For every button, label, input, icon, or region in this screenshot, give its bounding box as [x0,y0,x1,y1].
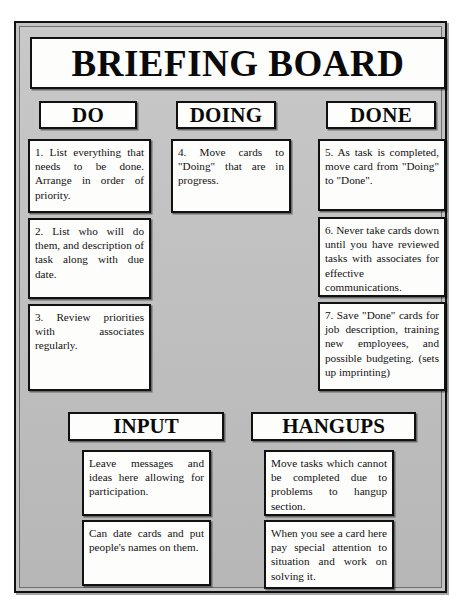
card-done-6[interactable]: 6. Never take cards down until you have … [318,217,446,297]
section-header-hangups-label: HANGUPS [282,416,385,437]
card-do-2[interactable]: 2. List who will do them, and descriptio… [28,218,151,299]
card-done-7-text: 7. Save "Done" cards for job description… [325,308,439,379]
card-hangups-1-text: Move tasks which cannot be completed due… [271,456,387,513]
card-do-2-text: 2. List who will do them, and descriptio… [35,224,144,281]
card-done-7[interactable]: 7. Save "Done" cards for job description… [318,302,446,391]
card-do-3-text: 3. Review priorities with associates reg… [35,310,144,353]
section-header-input: INPUT [68,412,224,441]
board-title: BRIEFING BOARD [72,45,405,82]
card-input-2-text: Can date cards and put people's names on… [89,526,204,554]
briefing-board: BRIEFING BOARD DO DOING DONE 1. List eve… [14,21,447,593]
card-input-2[interactable]: Can date cards and put people's names on… [82,520,211,586]
card-doing-4-text: 4. Move cards to "Doing" that are in pro… [178,145,284,188]
card-do-1[interactable]: 1. List everything that needs to be done… [28,139,151,213]
card-doing-4[interactable]: 4. Move cards to "Doing" that are in pro… [171,139,291,213]
board-inner-frame: BRIEFING BOARD DO DOING DONE 1. List eve… [19,26,442,588]
card-done-5[interactable]: 5. As task is completed, move card from … [318,139,446,211]
column-header-done: DONE [326,101,436,129]
card-hangups-2-text: When you see a card here pay special att… [271,526,387,583]
card-do-3[interactable]: 3. Review priorities with associates reg… [28,304,151,391]
column-header-done-label: DONE [350,105,412,126]
section-header-hangups: HANGUPS [251,412,416,441]
column-header-do-label: DO [72,105,104,126]
column-header-do: DO [39,101,137,129]
card-done-6-text: 6. Never take cards down until you have … [325,223,439,294]
board-title-box: BRIEFING BOARD [30,37,446,89]
card-hangups-2[interactable]: When you see a card here pay special att… [264,520,394,589]
card-input-1-text: Leave messages and ideas here allowing f… [89,456,204,499]
card-do-1-text: 1. List everything that needs to be done… [35,145,144,202]
card-done-5-text: 5. As task is completed, move card from … [325,145,439,188]
card-hangups-1[interactable]: Move tasks which cannot be completed due… [264,450,394,516]
column-header-doing: DOING [176,101,276,129]
section-header-input-label: INPUT [113,416,178,437]
card-input-1[interactable]: Leave messages and ideas here allowing f… [82,450,211,516]
column-header-doing-label: DOING [190,105,263,126]
